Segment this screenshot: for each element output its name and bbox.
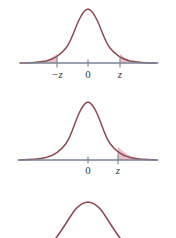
chart-two-tailed-normal-curve: −z 0 z bbox=[0, 0, 176, 85]
right-tail-shaded-region bbox=[118, 147, 156, 161]
normal-curve-path bbox=[56, 202, 120, 238]
axis-label-zero: 0 bbox=[85, 68, 91, 80]
normal-curve-path bbox=[20, 102, 156, 160]
normal-distribution-figure: −z 0 z 0 z bbox=[0, 0, 176, 238]
axis-label-z: z bbox=[115, 164, 121, 176]
axis-label-z: z bbox=[117, 68, 123, 80]
axis-label-zero: 0 bbox=[85, 164, 91, 176]
axis-label-minus-z: −z bbox=[51, 68, 63, 80]
chart-right-tailed-normal-curve: 0 z bbox=[0, 85, 176, 190]
normal-curve-path bbox=[20, 9, 156, 63]
chart-clipped-normal-curve bbox=[0, 190, 176, 238]
